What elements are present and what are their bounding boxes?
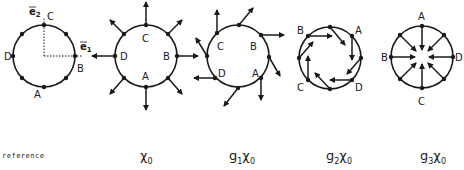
label-A: A — [34, 89, 41, 100]
label-B: B — [297, 25, 304, 36]
caption-g3chi0: g3χ0 — [420, 148, 446, 166]
label-A: A — [418, 11, 425, 22]
caption-chi0-sub: 0 — [148, 157, 153, 166]
caption-g1-sub: 0 — [250, 157, 255, 166]
label-B: B — [250, 41, 257, 52]
label-D: D — [4, 51, 12, 62]
caption-g2chi0: g2χ0 — [326, 148, 352, 166]
g3chi0-panel: A B D C — [381, 11, 463, 107]
caption-g2-sub: 0 — [347, 157, 352, 166]
caption-g2-base: χ — [339, 148, 347, 163]
label-C: C — [297, 82, 304, 93]
label-B: B — [163, 51, 170, 62]
g2chi0-panel: B A C D — [297, 25, 363, 93]
label-C: C — [418, 96, 425, 107]
chi0-panel: C B A D — [92, 2, 198, 110]
label-C: C — [217, 41, 224, 52]
e1-label: e1 — [80, 41, 92, 54]
caption-chi0: χ0 — [140, 148, 153, 166]
label-D: D — [455, 52, 463, 63]
label-C: C — [47, 11, 54, 22]
label-A: A — [252, 68, 259, 79]
label-D: D — [120, 51, 128, 62]
label-B: B — [77, 63, 84, 74]
caption-reference: reference — [2, 152, 44, 160]
e2-label: e2 — [29, 6, 41, 19]
label-C: C — [142, 33, 149, 44]
g1chi0-panel: C B A D — [194, 8, 284, 106]
label-D: D — [218, 68, 226, 79]
diagram-canvas: e2 e1 C B A D C B A D — [0, 0, 464, 170]
label-B: B — [381, 52, 388, 63]
caption-g3-sub: 0 — [441, 157, 446, 166]
label-D: D — [355, 82, 363, 93]
caption-g1chi0: g1χ0 — [229, 148, 255, 166]
caption-g3-base: χ — [433, 148, 441, 163]
caption-g1-base: χ — [242, 148, 250, 163]
label-A: A — [355, 25, 362, 36]
label-A: A — [142, 71, 149, 82]
reference-panel: e2 e1 C B A D — [4, 6, 92, 100]
caption-chi0-base: χ — [140, 148, 148, 163]
